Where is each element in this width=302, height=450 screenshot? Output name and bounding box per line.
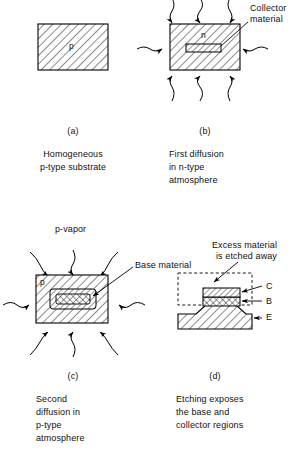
collector-material-label-line1: Collector: [250, 3, 286, 15]
p-vapor-label: p-vapor: [55, 224, 86, 236]
panel-d-base-layer: [203, 297, 240, 306]
panel-c-caption-line2: diffusion in: [36, 406, 161, 419]
excess-material-leader: [214, 262, 238, 282]
panel-a-letter: (a): [33, 126, 113, 136]
panel-c-diagram: [3, 250, 145, 357]
panel-d-letter: (d): [175, 371, 255, 381]
panel-b-letter: (b): [165, 126, 245, 136]
terminal-label-e: E: [266, 312, 272, 324]
panel-b-caption-line2: in n-type: [169, 161, 294, 174]
panel-b-caption-line1: First diffusion: [169, 148, 294, 161]
panel-b-diagram: [137, 0, 268, 101]
figure-canvas: [0, 0, 302, 450]
panel-d-emitter-layer: [178, 305, 252, 329]
panel-a-region-label-p: p: [69, 41, 74, 51]
terminal-label-b: B: [266, 296, 272, 308]
base-material-label: Base material: [135, 260, 191, 272]
panel-c-base-core: [56, 294, 90, 304]
panel-b-caption-line3: atmosphere: [169, 174, 294, 187]
terminal-label-c: C: [266, 281, 273, 293]
excess-material-label-line2: is etched away: [216, 251, 277, 263]
panel-b-collector-bar: [186, 44, 221, 52]
panel-c-letter: (c): [33, 371, 113, 381]
panel-c-caption-line3: p-type: [36, 419, 161, 432]
panel-c-caption-line4: atmosphere: [36, 432, 161, 445]
panel-d-caption-line3: collector regions: [176, 419, 301, 432]
panel-d-collector-layer: [203, 288, 240, 297]
panel-c-region-label-p: p: [40, 277, 45, 287]
panel-b-region-label-n: n: [201, 30, 206, 40]
panel-a-caption-line2: p-type substrate: [8, 161, 138, 174]
excess-material-label-line1: Excess material: [212, 240, 277, 252]
transistor-fabrication-figure: p n p Collector material p-vapor Base ma…: [0, 0, 302, 450]
panel-c-caption-line1: Second: [36, 393, 161, 406]
panel-d-diagram: [178, 262, 262, 329]
collector-material-label-line2: material: [250, 14, 283, 26]
panel-a-caption-line1: Homogeneous: [8, 148, 138, 161]
panel-d-caption-line2: the base and: [176, 406, 301, 419]
panel-d-caption-line1: Etching exposes: [176, 393, 301, 406]
